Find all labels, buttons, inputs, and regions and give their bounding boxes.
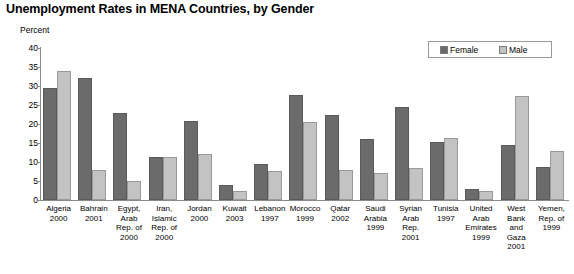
legend-item-female: Female (440, 45, 478, 55)
x-axis-category-label: UnitedArabEmirates1999 (462, 204, 500, 242)
bar-female (149, 157, 163, 200)
bar-male (198, 154, 212, 200)
bar-female (395, 107, 409, 200)
y-axis-tick-label: 15 (0, 139, 38, 148)
bar-group (182, 48, 217, 200)
x-axis-category-label: Qatar2002 (321, 204, 359, 223)
bar-female (289, 95, 303, 200)
bar-group (534, 48, 569, 200)
bar-male (233, 191, 247, 200)
y-axis-tick-label: 40 (0, 44, 38, 53)
bar-female (219, 185, 233, 200)
bar-male (374, 173, 388, 200)
bar-group (358, 48, 393, 200)
bar-group (41, 48, 76, 200)
y-axis-tick-label: 25 (0, 101, 38, 110)
x-axis-category-label: Jordan2000 (180, 204, 218, 223)
bar-group (111, 48, 146, 200)
bar-group (463, 48, 498, 200)
legend-swatch-male-icon (499, 46, 507, 54)
x-axis-category-label: Tunisia1997 (427, 204, 465, 223)
bar-male (444, 138, 458, 200)
y-axis-tick-mark (37, 86, 40, 87)
bar-group (393, 48, 428, 200)
x-axis-category-label: Yemen,Rep. of1999 (532, 204, 570, 233)
y-axis-unit-label: Percent (20, 25, 49, 35)
bar-group (287, 48, 322, 200)
bar-male (127, 181, 141, 200)
bar-male (163, 157, 177, 200)
legend-label-female: Female (450, 45, 478, 55)
y-axis-tick-mark (37, 200, 40, 201)
y-axis-tick-label: 0 (0, 196, 38, 205)
bar-male (303, 122, 317, 200)
bar-female (78, 78, 92, 200)
chart-container: Unemployment Rates in MENA Countries, by… (0, 0, 574, 274)
bar-female (430, 142, 444, 200)
plot-area (41, 48, 569, 200)
legend-swatch-female-icon (440, 46, 448, 54)
bar-group (217, 48, 252, 200)
bar-group (499, 48, 534, 200)
y-axis-tick-mark (37, 67, 40, 68)
y-axis-tick-mark (37, 181, 40, 182)
bar-male (339, 170, 353, 200)
x-axis-category-label: Egypt,ArabRep. of2000 (110, 204, 148, 242)
y-axis-tick-label: 10 (0, 158, 38, 167)
bar-male (57, 71, 71, 200)
y-axis-tick-mark (37, 105, 40, 106)
bar-male (479, 191, 493, 200)
bar-female (465, 189, 479, 200)
bar-male (409, 168, 423, 200)
bar-male (268, 171, 282, 200)
bar-male (515, 96, 529, 201)
bar-male (550, 151, 564, 200)
x-axis-category-label: Morocco1999 (286, 204, 324, 223)
chart-legend: Female Male (428, 41, 552, 58)
bar-female (325, 115, 339, 201)
y-axis-tick-label: 30 (0, 82, 38, 91)
y-axis-tick-label: 35 (0, 63, 38, 72)
x-axis-category-label: Iran,IslamicRep. of2000 (145, 204, 183, 242)
legend-item-male: Male (499, 45, 527, 55)
bar-female (184, 121, 198, 200)
bar-group (252, 48, 287, 200)
bar-group (76, 48, 111, 200)
y-axis-tick-label: 20 (0, 120, 38, 129)
x-axis-category-label: SyrianArabRep.2001 (392, 204, 430, 242)
x-axis-category-label: Lebanon1997 (251, 204, 289, 223)
bar-group (147, 48, 182, 200)
bar-female (536, 167, 550, 200)
bar-female (254, 164, 268, 200)
legend-label-male: Male (509, 45, 527, 55)
x-axis-category-label: Kuwait2003 (216, 204, 254, 223)
y-axis-tick-mark (37, 48, 40, 49)
y-axis-tick-mark (37, 143, 40, 144)
x-axis-category-label: Algeria2000 (40, 204, 78, 223)
x-axis-category-label: Bahrain2001 (75, 204, 113, 223)
bar-female (113, 113, 127, 200)
y-axis-tick-label: 5 (0, 177, 38, 186)
y-axis-tick-mark (37, 124, 40, 125)
x-axis-category-label: WestBankandGaza2001 (497, 204, 535, 252)
bar-female (501, 145, 515, 200)
chart-title: Unemployment Rates in MENA Countries, by… (6, 2, 314, 16)
bar-female (360, 139, 374, 200)
y-axis-tick-mark (37, 162, 40, 163)
bar-male (92, 170, 106, 200)
bar-group (428, 48, 463, 200)
bar-group (323, 48, 358, 200)
x-axis-category-label: SaudiArabia1999 (356, 204, 394, 233)
bar-female (43, 88, 57, 200)
x-axis-line (40, 200, 569, 201)
